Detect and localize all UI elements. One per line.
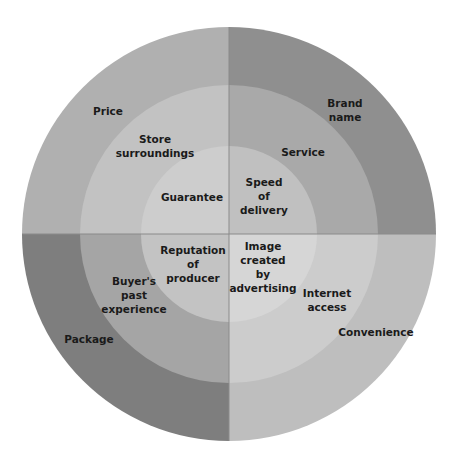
- label-brand-name: Brand name: [327, 96, 362, 124]
- label-store-surroundings: Store surroundings: [116, 132, 195, 160]
- label-service: Service: [281, 145, 325, 159]
- label-speed-of-delivery: Speed of delivery: [240, 175, 288, 217]
- label-price: Price: [93, 104, 123, 118]
- label-reputation-of-producer: Reputation of producer: [160, 243, 226, 285]
- label-image-created-by-advertising: Image created by advertising: [229, 239, 296, 295]
- label-guarantee: Guarantee: [161, 190, 223, 204]
- concentric-wheel-diagram: [0, 0, 465, 449]
- label-package: Package: [64, 332, 113, 346]
- label-buyers-past-experience: Buyer's past experience: [101, 274, 166, 316]
- label-convenience: Convenience: [338, 325, 413, 339]
- label-internet-access: Internet access: [303, 286, 351, 314]
